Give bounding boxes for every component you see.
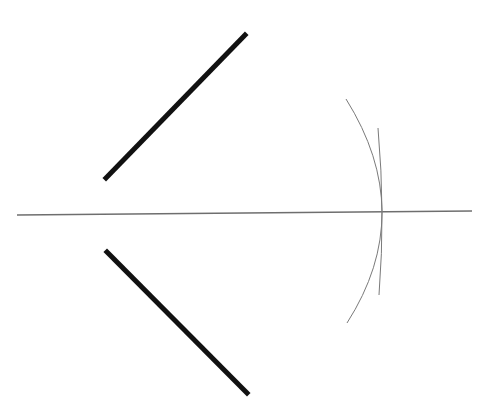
outer-arc (346, 99, 382, 323)
horizontal-line (17, 211, 472, 215)
construction-figure (0, 0, 485, 417)
diagram-canvas (0, 0, 485, 417)
lower-ray-line (107, 252, 247, 393)
upper-ray-line (106, 35, 245, 178)
